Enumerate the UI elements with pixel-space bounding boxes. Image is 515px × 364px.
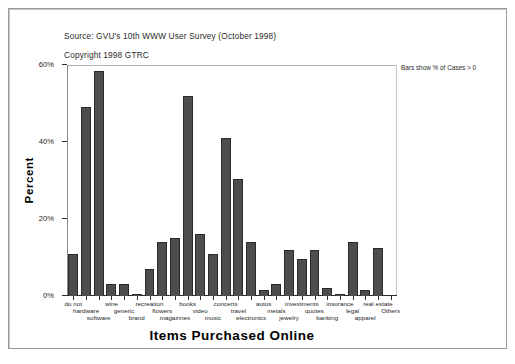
bar — [284, 250, 294, 296]
x-axis-tick-labels: do nothardwaresoftwarewinegenericbrandre… — [67, 300, 397, 326]
bar — [195, 234, 205, 296]
x-axis-tick-label: Others — [381, 307, 400, 314]
bar — [145, 269, 155, 296]
x-axis-tick-label: do not — [65, 300, 83, 307]
x-axis-title: Items Purchased Online — [67, 328, 397, 343]
bar — [271, 284, 281, 296]
bar — [106, 284, 116, 296]
x-axis-tick-label: insurance — [326, 300, 353, 307]
copyright-note: Copyright 1998 GTRC — [64, 50, 149, 60]
bar — [348, 242, 358, 296]
x-axis-tick-label: music — [205, 314, 221, 321]
plot-area: 0%20%40%60% — [67, 65, 397, 296]
bar — [81, 107, 91, 296]
bar — [246, 242, 256, 296]
x-axis-tick-label: brand — [129, 314, 145, 321]
bars-show-footnote: Bars show % of Cases > 0 — [401, 64, 476, 71]
plot-right-rule — [396, 65, 397, 296]
x-axis-tick-label: investments — [285, 300, 319, 307]
y-axis-tick: 0% — [62, 295, 67, 296]
source-note: Source: GVU's 10th WWW User Survey (Octo… — [64, 31, 276, 41]
y-axis-tick: 20% — [62, 218, 67, 219]
x-axis-tick-label: real estate — [363, 300, 392, 307]
bar — [183, 96, 193, 296]
bar — [208, 254, 218, 296]
x-axis-tick-label: quotes — [305, 307, 324, 314]
bar — [170, 238, 180, 296]
x-axis-tick-label: hardware — [73, 307, 99, 314]
chart-figure-frame: Source: GVU's 10th WWW User Survey (Octo… — [8, 8, 507, 349]
y-axis-tick-label: 40% — [39, 137, 54, 146]
bar — [157, 242, 167, 296]
x-axis-tick-label: generic — [114, 307, 135, 314]
x-axis-tick-label: books — [179, 300, 196, 307]
x-axis-tick-label: software — [87, 314, 111, 321]
bar — [94, 71, 104, 296]
y-axis-title-text: Percent — [23, 157, 35, 203]
x-axis-tick-label: wine — [105, 300, 118, 307]
plot-top-rule — [67, 65, 397, 66]
x-axis-tick-label: recreation — [135, 300, 163, 307]
bar — [373, 248, 383, 296]
bar — [68, 254, 78, 296]
x-axis-tick-label: electronics — [236, 314, 266, 321]
x-axis-tick-label: flowers — [152, 307, 172, 314]
y-axis-title: Percent — [23, 65, 35, 296]
x-axis-tick-label: magazines — [160, 314, 190, 321]
x-axis-tick-label: legal — [346, 307, 359, 314]
bar — [310, 250, 320, 296]
y-axis-tick-label: 60% — [39, 60, 54, 69]
x-axis-tick-label: apparel — [355, 314, 376, 321]
bar — [322, 288, 332, 296]
x-axis-tick-label: concerts — [214, 300, 238, 307]
bar — [119, 284, 129, 296]
y-axis-tick: 40% — [62, 141, 67, 142]
x-axis-tick-label: video — [193, 307, 208, 314]
x-axis-tick-label: travel — [231, 307, 246, 314]
x-axis-tick-label: jewelry — [279, 314, 299, 321]
x-axis-tick-label: metals — [267, 307, 286, 314]
y-axis-tick-label: 20% — [39, 214, 54, 223]
x-axis-tick-label: banking — [316, 314, 338, 321]
bar — [233, 179, 243, 296]
y-axis-tick-label: 0% — [43, 291, 54, 300]
x-axis-tick-label: autos — [256, 300, 271, 307]
y-axis-tick: 60% — [62, 64, 67, 65]
bar — [221, 138, 231, 296]
bar — [297, 259, 307, 296]
